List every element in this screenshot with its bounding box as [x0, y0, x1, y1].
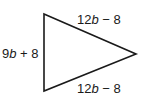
left-const: 8	[31, 46, 38, 61]
top-side-label: 12b − 8	[77, 13, 121, 26]
top-op: −	[99, 12, 114, 27]
bottom-coef: 12	[77, 81, 91, 96]
left-op: +	[16, 46, 31, 61]
bottom-side-label: 12b − 8	[77, 82, 121, 95]
top-coef: 12	[77, 12, 91, 27]
triangle-diagram: 9b + 8 12b − 8 12b − 8	[0, 0, 148, 101]
bottom-const: 8	[114, 81, 121, 96]
bottom-op: −	[99, 81, 114, 96]
left-side-label: 9b + 8	[2, 47, 39, 60]
top-const: 8	[114, 12, 121, 27]
top-var: b	[91, 12, 98, 27]
bottom-var: b	[91, 81, 98, 96]
